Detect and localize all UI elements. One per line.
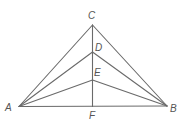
segment-ac <box>19 25 93 107</box>
segment-eb <box>93 80 168 106</box>
segment-db <box>93 52 168 106</box>
triangle-diagram: A B C D E F <box>0 0 185 124</box>
segment-cb <box>93 25 168 106</box>
segment-ae <box>19 80 93 107</box>
label-d: D <box>95 42 102 53</box>
label-a: A <box>4 102 12 113</box>
label-b: B <box>170 103 177 114</box>
label-c: C <box>88 10 96 21</box>
label-f: F <box>89 110 96 121</box>
label-e: E <box>94 67 101 78</box>
segments <box>19 25 167 107</box>
segment-ad <box>19 52 93 107</box>
